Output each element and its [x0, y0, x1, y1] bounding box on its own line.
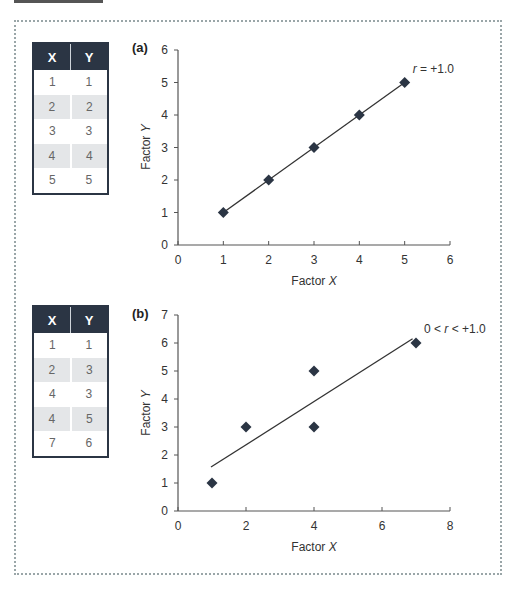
- data-point-diamond-icon: [263, 175, 274, 186]
- x-tick-label: 6: [447, 253, 454, 267]
- y-tick-label: 2: [161, 448, 168, 462]
- correlation-annotation: 0 < r < +1.0: [424, 322, 486, 336]
- y-tick-label: 6: [161, 43, 168, 57]
- y-axis-title: Factor Y: [139, 123, 153, 169]
- y-tick-label: 2: [161, 173, 168, 187]
- x-tick-label: 5: [401, 253, 408, 267]
- x-tick-label: 2: [243, 519, 250, 533]
- y-tick-label: 1: [161, 476, 168, 490]
- x-tick-label: 4: [356, 253, 363, 267]
- x-tick-label: 2: [265, 253, 272, 267]
- chart-a: 01234560123456(a)Factor YFactor Xr = +1.…: [132, 40, 454, 288]
- data-point-diamond-icon: [241, 422, 252, 433]
- charts-canvas: 01234560123456(a)Factor YFactor Xr = +1.…: [0, 0, 515, 594]
- trend-line: [211, 339, 413, 467]
- x-tick-label: 8: [447, 519, 454, 533]
- y-tick-label: 5: [161, 364, 168, 378]
- y-tick-label: 0: [161, 238, 168, 252]
- x-tick-label: 1: [220, 253, 227, 267]
- x-axis-title: Factor X: [291, 274, 337, 288]
- y-axis-title: Factor Y: [139, 389, 153, 435]
- y-tick-label: 1: [161, 206, 168, 220]
- panel-label: (b): [132, 306, 149, 321]
- chart-b: 0246801234567(b)Factor YFactor X0 < r < …: [132, 306, 486, 554]
- x-tick-label: 6: [379, 519, 386, 533]
- x-tick-label: 0: [175, 253, 182, 267]
- data-point-diamond-icon: [399, 77, 410, 88]
- y-tick-label: 4: [161, 108, 168, 122]
- x-tick-label: 3: [311, 253, 318, 267]
- y-tick-label: 6: [161, 336, 168, 350]
- y-tick-label: 5: [161, 76, 168, 90]
- y-tick-label: 7: [161, 308, 168, 322]
- y-tick-label: 3: [161, 420, 168, 434]
- x-tick-label: 4: [311, 519, 318, 533]
- data-point-diamond-icon: [309, 422, 320, 433]
- data-point-diamond-icon: [309, 366, 320, 377]
- y-tick-label: 0: [161, 504, 168, 518]
- panel-label: (a): [132, 40, 148, 55]
- data-point-diamond-icon: [309, 142, 320, 153]
- correlation-annotation: r = +1.0: [413, 62, 455, 76]
- x-tick-label: 0: [175, 519, 182, 533]
- data-point-diamond-icon: [354, 110, 365, 121]
- data-point-diamond-icon: [207, 478, 218, 489]
- data-point-diamond-icon: [218, 207, 229, 218]
- y-tick-label: 3: [161, 141, 168, 155]
- y-tick-label: 4: [161, 392, 168, 406]
- x-axis-title: Factor X: [291, 540, 337, 554]
